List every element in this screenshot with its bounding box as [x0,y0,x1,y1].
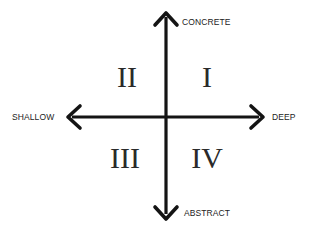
quadrant-label-iv: IV [191,143,223,173]
axis-label-concrete: CONCRETE [182,18,231,27]
axis-label-deep: DEEP [272,113,296,122]
axis-label-shallow: SHALLOW [12,113,54,122]
quadrant-label-iii: III [110,143,140,173]
axis-label-abstract: ABSTRACT [184,209,230,218]
quadrant-label-ii: II [117,62,137,92]
quadrant-diagram: CONCRETE SHALLOW DEEP ABSTRACT II I III … [0,0,311,229]
quadrant-label-i: I [202,62,212,92]
